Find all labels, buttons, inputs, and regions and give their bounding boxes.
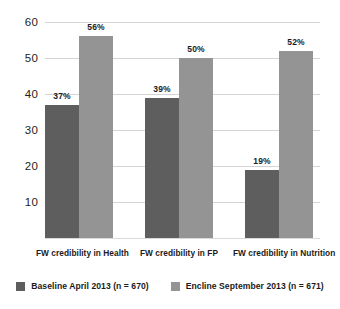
- y-tick-label-20: 20: [8, 160, 38, 172]
- bar-group-fp: 39% 50%: [145, 22, 213, 238]
- y-tick-label-60: 60: [8, 16, 38, 28]
- legend-entry-baseline[interactable]: Baseline April 2013 (n = 670): [16, 281, 148, 291]
- bar-health-encline[interactable]: 56%: [79, 36, 113, 238]
- bar-fp-encline[interactable]: 50%: [179, 58, 213, 238]
- bar-value-label: 37%: [53, 91, 70, 101]
- bar-value-label: 39%: [153, 84, 170, 94]
- bar-value-label: 52%: [287, 37, 304, 47]
- bar-health-baseline[interactable]: 37%: [45, 105, 79, 238]
- legend-entry-encline[interactable]: Encline September 2013 (n = 671): [171, 281, 324, 291]
- bar-nutrition-encline[interactable]: 52%: [279, 51, 313, 238]
- bar-fp-baseline[interactable]: 39%: [145, 98, 179, 238]
- bar-value-label: 19%: [253, 156, 270, 166]
- category-label-health: FW credibility in Health: [36, 248, 122, 258]
- bar-chart: 60 50 40 30 20 10 37% 56% 39%: [0, 0, 340, 309]
- y-axis: 60 50 40 30 20 10: [0, 22, 38, 238]
- legend-label-baseline: Baseline April 2013 (n = 670): [31, 281, 148, 291]
- legend: Baseline April 2013 (n = 670) Encline Se…: [0, 281, 340, 291]
- plot-area: 37% 56% 39% 50% 19% 52%: [45, 22, 320, 238]
- gridline-baseline: [45, 238, 320, 239]
- legend-swatch-baseline: [16, 282, 25, 291]
- y-tick-label-10: 10: [8, 196, 38, 208]
- category-label-nutrition: FW credibility in Nutrition: [233, 248, 325, 258]
- legend-label-encline: Encline September 2013 (n = 671): [186, 281, 324, 291]
- bar-value-label: 56%: [87, 22, 104, 32]
- legend-swatch-encline: [171, 282, 180, 291]
- y-tick-label-50: 50: [8, 52, 38, 64]
- bar-value-label: 50%: [187, 44, 204, 54]
- x-axis: FW credibility in Health FW credibility …: [45, 248, 320, 262]
- y-tick-label-40: 40: [8, 88, 38, 100]
- category-label-fp: FW credibility in FP: [138, 248, 220, 258]
- y-tick-label-30: 30: [8, 124, 38, 136]
- bar-nutrition-baseline[interactable]: 19%: [245, 170, 279, 238]
- bar-group-nutrition: 19% 52%: [245, 22, 313, 238]
- bar-group-health: 37% 56%: [45, 22, 113, 238]
